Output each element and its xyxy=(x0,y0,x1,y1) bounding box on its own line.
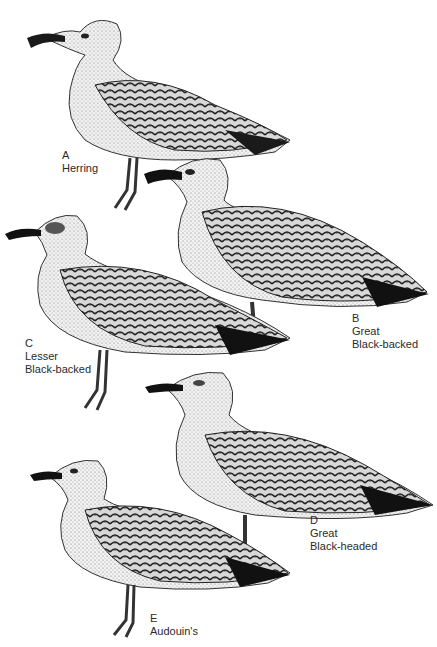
label-d-letter: D xyxy=(310,514,377,527)
label-d-name-line2: Black-headed xyxy=(310,540,377,553)
label-d: D Great Black-headed xyxy=(310,514,377,553)
label-a-name: Herring xyxy=(62,162,98,175)
label-e-letter: E xyxy=(150,612,198,625)
label-e: E Audouin's xyxy=(150,612,198,638)
label-d-name-line1: Great xyxy=(310,527,377,540)
label-c-name-line1: Lesser xyxy=(25,350,91,363)
label-a-letter: A xyxy=(62,149,98,162)
label-b-letter: B xyxy=(352,312,418,325)
label-c-name-line2: Black-backed xyxy=(25,363,91,376)
label-b-name-line1: Great xyxy=(352,325,418,338)
label-c: C Lesser Black-backed xyxy=(25,337,91,376)
label-e-name: Audouin's xyxy=(150,625,198,638)
label-b-name-line2: Black-backed xyxy=(352,338,418,351)
label-b: B Great Black-backed xyxy=(352,312,418,351)
label-c-letter: C xyxy=(25,337,91,350)
label-a: A Herring xyxy=(62,149,98,175)
